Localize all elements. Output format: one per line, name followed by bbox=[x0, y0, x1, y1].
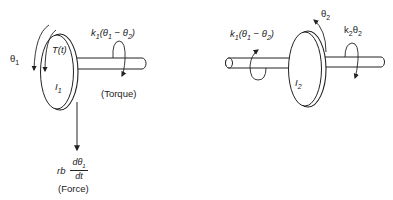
spring-torque-label-left: k1(θ1 − θ2) bbox=[91, 28, 135, 40]
torque-caption: (Torque) bbox=[101, 89, 136, 99]
right-disk-inertia-i2 bbox=[289, 31, 327, 107]
damping-force-prefix: rb bbox=[57, 166, 65, 176]
damping-force-numerator: dθ1 bbox=[70, 158, 88, 171]
force-caption: (Force) bbox=[58, 184, 89, 194]
torque-input-label: T(t) bbox=[52, 45, 67, 55]
right-body-right-shaft bbox=[318, 57, 385, 67]
damping-force-fraction: dθ1 dt bbox=[70, 158, 88, 181]
inertia-i2-label: I2 bbox=[295, 78, 302, 90]
theta2-label: θ2 bbox=[321, 9, 330, 21]
inertia-i1-label: I1 bbox=[55, 82, 62, 94]
theta1-label: θ1 bbox=[10, 54, 19, 66]
left-shaft bbox=[76, 58, 146, 69]
k2-theta2-label: k2θ2 bbox=[344, 25, 362, 37]
spring-torque-label-right-body: k1(θ1 − θ2) bbox=[230, 29, 274, 41]
damping-force-denominator: dt bbox=[70, 171, 88, 181]
